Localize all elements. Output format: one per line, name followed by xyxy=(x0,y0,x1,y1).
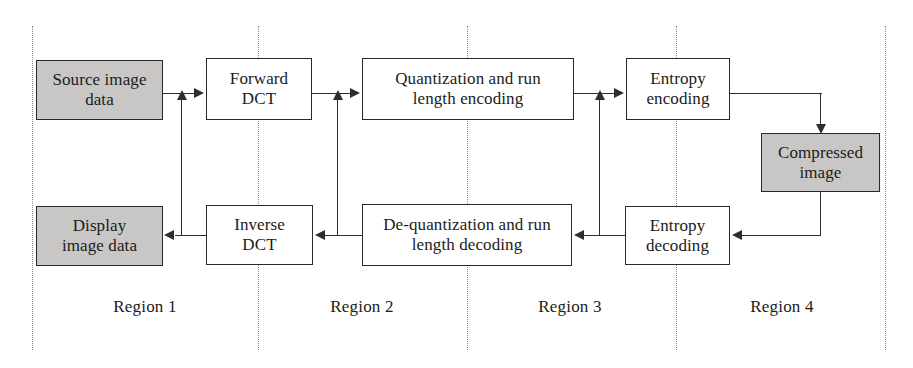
edge-entropy-encoding-to-compressed-vertical xyxy=(820,93,821,128)
edge-feedback-region3-vertical xyxy=(599,98,600,236)
arrowhead-entropy-decoding-to-dequantization xyxy=(574,230,584,240)
arrowhead-forward-dct-to-quantization xyxy=(350,88,360,98)
arrowhead-source-to-forward-dct xyxy=(194,88,204,98)
edge-inverse-dct-to-display xyxy=(175,235,206,236)
edge-entropy-decoding-to-dequantization xyxy=(584,235,625,236)
node-quantization-encoding-label: Quantization and run length encoding xyxy=(395,69,541,108)
node-source-image-data[interactable]: Source image data xyxy=(36,60,163,120)
region-label-1: Region 1 xyxy=(113,297,176,317)
arrowhead-compressed-to-entropy-decoding xyxy=(732,230,742,240)
jpeg-codec-block-diagram: Source image data Forward DCT Quantizati… xyxy=(0,0,913,368)
region-label-4: Region 4 xyxy=(750,297,813,317)
region-divider-5 xyxy=(885,26,886,350)
node-entropy-encoding[interactable]: Entropy encoding xyxy=(626,58,730,120)
edge-compressed-to-entropy-decoding-horizontal xyxy=(742,235,821,236)
node-inverse-dct[interactable]: Inverse DCT xyxy=(206,205,313,265)
node-entropy-encoding-label: Entropy encoding xyxy=(646,69,709,108)
node-source-image-data-label: Source image data xyxy=(52,70,146,109)
edge-dequantization-to-inverse-dct xyxy=(325,235,362,236)
node-display-image-data[interactable]: Display image data xyxy=(36,206,163,266)
node-forward-dct[interactable]: Forward DCT xyxy=(206,58,312,120)
region-divider-1 xyxy=(32,26,33,350)
node-inverse-dct-label: Inverse DCT xyxy=(234,215,285,254)
edge-feedback-region2-vertical xyxy=(337,98,338,236)
node-compressed-image-label: Compressed image xyxy=(778,143,863,182)
arrowhead-feedback-region1 xyxy=(177,90,187,100)
node-compressed-image[interactable]: Compressed image xyxy=(761,133,880,192)
edge-entropy-encoding-to-compressed-horizontal xyxy=(730,93,822,94)
node-display-image-data-label: Display image data xyxy=(62,216,137,255)
arrowhead-quantization-to-entropy-encoding xyxy=(614,88,624,98)
region-label-2: Region 2 xyxy=(330,297,393,317)
edge-compressed-to-entropy-decoding-vertical xyxy=(820,192,821,236)
node-entropy-decoding[interactable]: Entropy decoding xyxy=(625,206,730,265)
arrowhead-inverse-dct-to-display xyxy=(164,230,174,240)
node-quantization-encoding[interactable]: Quantization and run length encoding xyxy=(362,58,574,120)
arrowhead-dequantization-to-inverse-dct xyxy=(315,230,325,240)
node-entropy-decoding-label: Entropy decoding xyxy=(646,216,709,255)
edge-feedback-region1-vertical xyxy=(181,98,182,236)
edge-forward-dct-to-quantization xyxy=(312,93,352,94)
node-dequantization-decoding-label: De-quantization and run length decoding xyxy=(383,215,551,254)
node-forward-dct-label: Forward DCT xyxy=(230,69,288,108)
arrowhead-feedback-region2 xyxy=(333,90,343,100)
arrowhead-feedback-region3 xyxy=(595,90,605,100)
region-label-3: Region 3 xyxy=(538,297,601,317)
node-dequantization-decoding[interactable]: De-quantization and run length decoding xyxy=(362,204,572,266)
